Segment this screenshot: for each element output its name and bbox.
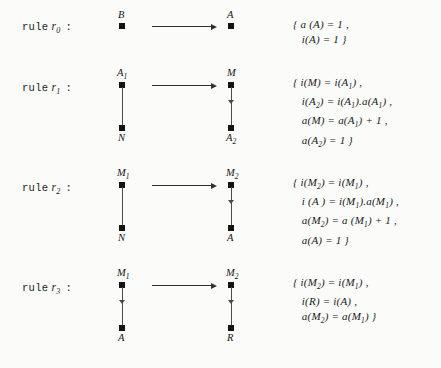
rule-row-3: ruler3: M1 A M2 R { i(M2) = i(M1) , i(R)… — [0, 260, 441, 360]
edge-arrowhead-rhs-3 — [228, 300, 234, 304]
equation-line: { i(M2) = i(M1) , — [293, 275, 376, 294]
node-label-lhs-1-top: A1 — [117, 67, 127, 81]
equation-line: { i(M2) = i(M1) , — [293, 175, 399, 194]
rule-label-2: ruler2: — [22, 181, 72, 196]
rule-colon-3: : — [61, 282, 73, 294]
node-label-lhs-3-bottom: A — [118, 332, 124, 343]
node-label-lhs-0-top: B — [118, 9, 124, 20]
node-rhs-2-bottom — [228, 225, 234, 231]
node-label-rhs-0-top: A — [227, 9, 233, 20]
edge-lhs-2 — [122, 187, 123, 227]
node-rhs-3-bottom — [228, 325, 234, 331]
transform-arrow-head-1 — [211, 83, 217, 89]
rule-row-1: ruler1: A1 N M A2 { i(M) = i(A1) , i(A2)… — [0, 60, 441, 160]
rule-index-1: 1 — [56, 87, 60, 96]
edge-rhs-2 — [231, 187, 232, 227]
rule-colon-0: : — [61, 21, 73, 33]
node-lhs-2-bottom — [119, 225, 125, 231]
transform-arrow-head-3 — [211, 283, 217, 289]
edge-lhs-3 — [122, 287, 123, 327]
equations-3: { i(M2) = i(M1) , i(R) = i(A) , a(M2) = … — [293, 275, 376, 328]
equation-line: i(R) = i(A) , — [293, 294, 376, 309]
edge-arrowhead-lhs-3 — [119, 300, 125, 304]
node-label-rhs-1-top: M — [227, 67, 236, 78]
node-rhs-0-top — [228, 23, 234, 29]
equation-line: i (A ) = i(M1).a(M1) , — [293, 194, 399, 213]
rule-index-0: 0 — [56, 26, 60, 35]
transform-arrow-head-2 — [211, 183, 217, 189]
rule-keyword-0: rule — [22, 21, 48, 33]
equations-2: { i(M2) = i(M1) , i (A ) = i(M1).a(M1) ,… — [293, 175, 399, 248]
rule-row-2: ruler2: M1 N M2 A { i(M2) = i(M1) , i (A… — [0, 160, 441, 260]
equation-line: { a (A) = 1 , — [293, 17, 349, 32]
node-lhs-0-top — [119, 23, 125, 29]
transform-arrow-line-3 — [152, 285, 212, 286]
rule-colon-2: : — [61, 182, 73, 194]
edge-arrowhead-rhs-1 — [228, 100, 234, 104]
node-label-lhs-3-top: M1 — [117, 267, 130, 281]
node-label-rhs-3-top: M2 — [226, 267, 239, 281]
equation-line: a(M2) = a (M1) + 1 , — [293, 213, 399, 232]
rule-keyword-3: rule — [22, 282, 48, 294]
transform-arrow-head-0 — [211, 24, 217, 30]
equation-line: a(A2) = 1 } — [293, 133, 392, 152]
edge-lhs-1 — [122, 87, 123, 127]
node-rhs-1-bottom — [228, 125, 234, 131]
node-lhs-3-bottom — [119, 325, 125, 331]
rule-label-0: ruler0: — [22, 20, 72, 35]
equation-line: i(A2) = i(A1).a(A1) , — [293, 94, 392, 113]
rule-label-3: ruler3: — [22, 281, 72, 296]
equation-line: a(A) = 1 } — [293, 233, 399, 248]
rule-colon-1: : — [61, 82, 73, 94]
rule-index-2: 2 — [56, 187, 60, 196]
node-label-lhs-2-top: M1 — [117, 167, 130, 181]
rule-label-1: ruler1: — [22, 81, 72, 96]
rule-keyword-2: rule — [22, 182, 48, 194]
node-lhs-1-bottom — [119, 125, 125, 131]
rules-figure: ruler0: B A { a (A) = 1 , i(A) = 1 } rul… — [0, 0, 441, 368]
equations-0: { a (A) = 1 , i(A) = 1 } — [293, 17, 349, 47]
equation-line: { i(M) = i(A1) , — [293, 75, 392, 94]
edge-rhs-3 — [231, 287, 232, 327]
equation-line: a(M2) = a(M1) } — [293, 309, 376, 328]
node-label-rhs-2-top: M2 — [226, 167, 239, 181]
equations-1: { i(M) = i(A1) , i(A2) = i(A1).a(A1) , a… — [293, 75, 392, 152]
rule-index-3: 3 — [56, 287, 60, 296]
transform-arrow-line-0 — [152, 26, 212, 27]
rule-row-0: ruler0: B A { a (A) = 1 , i(A) = 1 } — [0, 0, 441, 60]
node-label-lhs-1-bottom: N — [118, 132, 125, 143]
transform-arrow-line-2 — [152, 185, 212, 186]
edge-arrowhead-rhs-2 — [228, 200, 234, 204]
node-label-rhs-2-bottom: A — [227, 232, 233, 243]
equation-line: a(M) = a(A1) + 1 , — [293, 113, 392, 132]
transform-arrow-line-1 — [152, 85, 212, 86]
node-label-rhs-3-bottom: R — [227, 332, 233, 343]
edge-rhs-1 — [231, 87, 232, 127]
rule-keyword-1: rule — [22, 82, 48, 94]
node-label-rhs-1-bottom: A2 — [226, 132, 236, 146]
node-label-lhs-2-bottom: N — [118, 232, 125, 243]
equation-line: i(A) = 1 } — [293, 32, 349, 47]
